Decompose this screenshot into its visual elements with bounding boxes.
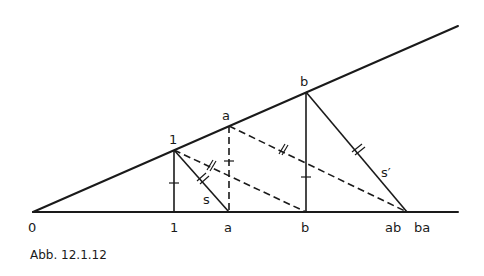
label-ray-1: 1: [169, 132, 177, 147]
label-axis-ab: ab: [385, 220, 401, 235]
label-axis-b: b: [301, 220, 309, 235]
dashed-parallel-1-b: [174, 150, 306, 212]
label-ray-b: b: [300, 74, 308, 89]
hash-mark-dashed-a-ab: [279, 144, 288, 155]
label-segment-s-prime: s′: [381, 165, 391, 180]
label-segment-s: s: [203, 192, 210, 207]
label-axis-a: a: [224, 220, 232, 235]
label-axis-ba: ba: [414, 220, 430, 235]
multiplication-construction-diagram: 0 1 a b ab ba 1 a b s s′ Abb. 12.1.12: [0, 0, 484, 276]
label-origin: 0: [28, 220, 36, 235]
label-ray-a: a: [222, 108, 230, 123]
segment-s-prime: [306, 92, 407, 212]
segment-s: [174, 150, 229, 212]
figure-caption: Abb. 12.1.12: [30, 248, 107, 262]
label-axis-1: 1: [170, 220, 178, 235]
